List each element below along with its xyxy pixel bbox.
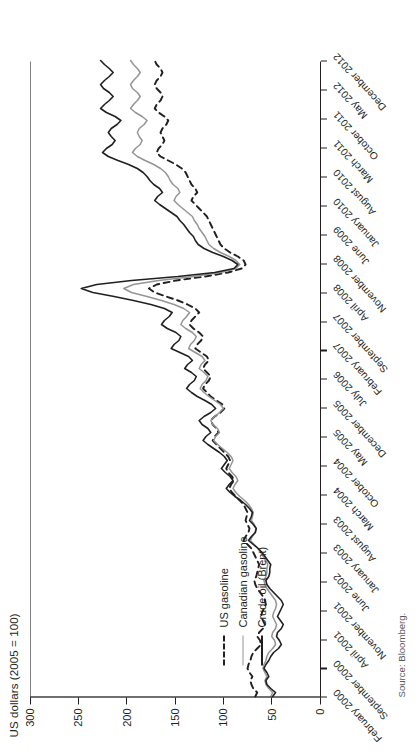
- x-axis-tick: [321, 639, 327, 640]
- x-axis-tick: [321, 523, 327, 524]
- x-axis-tick: [321, 234, 327, 235]
- y-axis-tick-label: 150: [169, 708, 181, 726]
- legend-label: Crude oil (Brent): [256, 546, 268, 627]
- series-lines: [31, 60, 321, 696]
- y-axis-tick-label: 300: [24, 708, 36, 726]
- dashed-line-icon: [218, 635, 230, 665]
- y-axis-tick: [223, 697, 224, 704]
- y-axis-title: US dollars (2005 = 100): [8, 613, 20, 737]
- y-axis-tick: [126, 697, 127, 704]
- gray-line-icon: [237, 635, 249, 665]
- x-axis-tick: [321, 292, 327, 293]
- x-axis-tick: [321, 118, 327, 119]
- x-axis-tick: [321, 378, 327, 379]
- x-axis-tick: [321, 581, 327, 582]
- x-axis-tick: [321, 147, 327, 148]
- x-axis-tick: [321, 610, 327, 611]
- y-axis-tick: [320, 697, 321, 704]
- legend-item-crude-oil: Crude oil (Brent): [252, 536, 271, 665]
- rotated-figure-container: US dollars (2005 = 100) 0501001502002503…: [0, 0, 420, 751]
- black-line-icon: [256, 635, 268, 665]
- legend: US gasoline Canadian gasoline Crude oil …: [214, 536, 271, 665]
- legend-item-us-gasoline: US gasoline: [214, 536, 233, 665]
- x-axis-tick: [321, 89, 327, 90]
- x-axis-tick: [321, 321, 327, 322]
- y-axis-tick-label: 250: [72, 708, 84, 726]
- legend-item-canadian-gasoline: Canadian gasoline: [233, 536, 252, 665]
- y-axis-tick-label: 50: [266, 708, 278, 720]
- x-axis-tick: [321, 350, 327, 351]
- y-axis-tick: [30, 697, 31, 704]
- y-axis-tick-label: 200: [121, 708, 133, 726]
- x-axis-tick: [321, 696, 327, 697]
- x-axis-tick: [321, 263, 327, 264]
- y-axis-tick: [271, 697, 272, 704]
- x-axis-tick: [321, 668, 327, 669]
- y-axis-tick: [175, 697, 176, 704]
- price-index-chart: US dollars (2005 = 100) 0501001502002503…: [0, 0, 420, 751]
- plot-area: [30, 61, 320, 697]
- x-axis-tick: [321, 465, 327, 466]
- y-axis-tick-label: 0: [314, 708, 326, 714]
- x-axis-tick: [321, 407, 327, 408]
- x-axis-tick: [321, 552, 327, 553]
- y-axis-tick: [78, 697, 79, 704]
- x-axis-tick: [321, 60, 327, 61]
- x-axis-tick: [321, 205, 327, 206]
- legend-label: US gasoline: [218, 568, 230, 627]
- figure-page: US dollars (2005 = 100) 0501001502002503…: [0, 0, 420, 751]
- x-axis-tick: [321, 436, 327, 437]
- y-axis-tick-label: 100: [217, 708, 229, 726]
- x-axis-tick: [321, 494, 327, 495]
- legend-label: Canadian gasoline: [237, 536, 249, 627]
- x-axis-tick: [321, 176, 327, 177]
- source-note: Source: Bloomberg.: [396, 612, 407, 697]
